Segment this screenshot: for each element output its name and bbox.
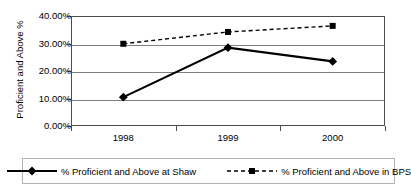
y-tick-label: 30.00%: [25, 39, 71, 49]
legend-label: % Proficient and Above in BPS: [281, 166, 411, 177]
diamond-marker-icon: [328, 57, 337, 66]
series-line: [123, 48, 332, 98]
series-layer: [71, 16, 385, 126]
square-marker-icon: [225, 29, 231, 35]
y-tick-label: 20.00%: [25, 66, 71, 76]
square-marker-icon: [249, 168, 255, 174]
diamond-marker-icon: [224, 43, 233, 52]
y-tick-label: 10.00%: [25, 94, 71, 104]
square-marker-icon: [330, 23, 336, 29]
x-tick-label: 2000: [303, 131, 363, 144]
diamond-marker-icon: [28, 167, 37, 176]
x-tick-label: 1999: [198, 131, 258, 144]
legend-label: % Proficient and Above at Shaw: [61, 166, 196, 177]
x-tick-label: 1998: [93, 131, 153, 144]
square-marker-icon: [120, 41, 126, 47]
legend: % Proficient and Above at Shaw% Proficie…: [22, 158, 395, 184]
y-tick-label: 0.00%: [25, 121, 71, 131]
diamond-marker-icon: [119, 93, 128, 102]
solid-line-icon: [6, 165, 58, 177]
y-axis-ticks: 0.00%10.00%20.00%30.00%40.00%: [0, 16, 71, 126]
y-tick-label: 40.00%: [25, 11, 71, 21]
x-tick-mark: [385, 126, 386, 131]
legend-entry[interactable]: % Proficient and Above in BPS: [226, 165, 411, 177]
dashed-line-icon: [226, 165, 278, 177]
x-axis-labels: 199819992000: [71, 131, 385, 147]
line-chart: Proficient and Above % 0.00%10.00%20.00%…: [0, 0, 411, 193]
legend-entry[interactable]: % Proficient and Above at Shaw: [6, 165, 196, 177]
